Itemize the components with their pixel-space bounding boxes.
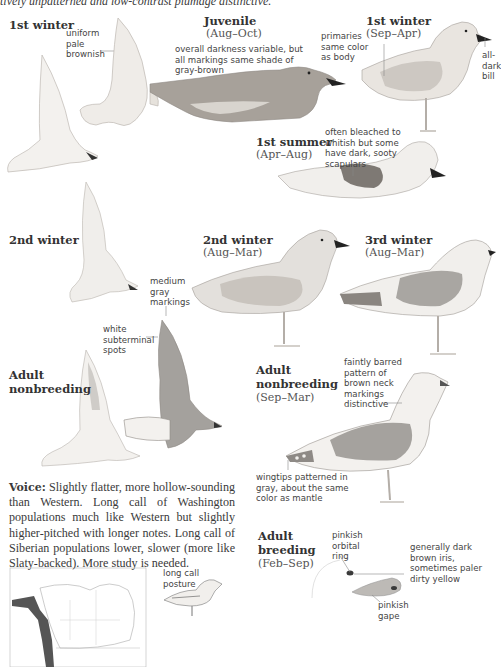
plate-dates-1st-summer: (Apr–Aug) [256,148,312,162]
plate-title-adult-nonbreeding-flight: Adult nonbreeding [9,368,91,396]
plate-dates-3rd-winter: (Aug–Mar) [365,246,424,260]
adult-breeding-head-detail [312,556,404,602]
plate-title-1st-summer: 1st summer [256,135,332,149]
note-primaries-same-color: primaries same color as body [321,31,368,63]
voice-paragraph: Voice: Slightly flatter, more hollow-sou… [9,480,235,571]
bird-1st-winter-flight-b [80,18,158,126]
note-all-dark-bill: all- dark bill [482,50,501,82]
voice-label: Voice: [9,481,46,494]
plate-title-juvenile: Juvenile [204,14,256,28]
note-dark-brown-iris: generally dark brown iris, sometimes pal… [410,542,482,584]
plate-dates-juvenile: (Aug–Oct) [206,27,262,41]
note-1st-summer: often bleached to whitish but some have … [325,127,401,169]
plate-dates-2nd-winter-standing: (Aug–Mar) [203,246,262,260]
bird-2nd-winter-flight [70,182,138,302]
note-wingtips-patterned: wingtips patterned in gray, about the sa… [256,472,349,504]
plate-dates-adult-breeding: (Feb–Sep) [258,557,314,571]
note-white-subterminal-spots: white subterminal spots [103,324,154,356]
plate-title-adult-breeding: Adult breeding [258,529,316,557]
plate-title-adult-nonbreeding-standing: Adult nonbreeding [256,363,338,391]
plate-title-2nd-winter-standing: 2nd winter [203,233,273,247]
plate-dates-adult-nonbreeding: (Sep–Mar) [256,391,314,405]
note-medium-gray-markings: medium gray markings [150,276,190,308]
note-pinkish-orbital-ring: pinkish orbital ring [332,530,363,562]
plate-title-3rd-winter: 3rd winter [365,233,432,247]
plate-dates-1st-winter-standing: (Sep–Apr) [366,27,421,41]
range-map [10,568,146,667]
plate-title-1st-winter-standing: 1st winter [366,14,431,28]
note-pinkish-gape: pinkish gape [378,600,409,621]
plate-title-2nd-winter-flight: 2nd winter [9,233,79,247]
note-juvenile: overall darkness variable, but all marki… [175,44,303,76]
note-long-call-posture: long call posture [163,568,199,589]
note-faintly-barred-neck: faintly barred pattern of brown neck mar… [344,357,402,410]
